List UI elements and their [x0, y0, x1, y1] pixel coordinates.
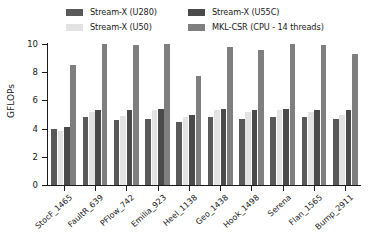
bar: [214, 110, 220, 185]
bar: [270, 117, 276, 185]
x-tick-mark: [64, 186, 65, 191]
x-tick-mark: [345, 186, 346, 191]
bar: [346, 110, 352, 185]
y-tick-mark: [42, 185, 48, 186]
x-tick-mark: [251, 186, 252, 191]
legend-label-mkl-csr: MKL-CSR (CPU - 14 threads): [212, 23, 324, 32]
bar: [176, 122, 182, 185]
bar: [208, 117, 214, 185]
bar: [333, 119, 339, 185]
bar: [308, 112, 314, 185]
x-tick-mark: [189, 186, 190, 191]
bar: [164, 44, 170, 185]
bars-layer: [48, 44, 361, 185]
bar: [120, 116, 126, 185]
x-tick-mark: [95, 186, 96, 191]
bar: [158, 109, 164, 185]
bar: [145, 119, 151, 185]
legend-swatch-stream-x-u280: [66, 9, 83, 16]
bar: [283, 109, 289, 185]
bar: [245, 112, 251, 185]
x-tick-mark: [283, 186, 284, 191]
legend-swatch-mkl-csr: [188, 24, 205, 31]
bar: [227, 47, 233, 185]
chart-legend: Stream-X (U280) Stream-X (U50) Stream-X …: [66, 6, 366, 38]
bar: [339, 115, 345, 186]
y-tick-label: 8: [0, 67, 38, 77]
bar: [352, 54, 358, 185]
legend-entry-mkl-csr: MKL-CSR (CPU - 14 threads): [188, 21, 324, 34]
legend-label-stream-x-u50: Stream-X (U50): [90, 23, 152, 32]
y-tick-label: 4: [0, 124, 38, 134]
x-tick-label: StocF_1465: [33, 193, 74, 231]
bar: [252, 110, 258, 185]
bar: [321, 45, 327, 185]
y-tick-label: 0: [0, 180, 38, 190]
bar: [133, 45, 139, 185]
y-tick-label: 6: [0, 95, 38, 105]
bar: [302, 117, 308, 185]
bar: [89, 112, 95, 185]
x-tick-mark: [126, 186, 127, 191]
bar: [314, 110, 320, 185]
bar: [221, 109, 227, 185]
x-tick-mark: [220, 186, 221, 191]
bar-chart-figure: Stream-X (U280) Stream-X (U50) Stream-X …: [0, 0, 371, 252]
y-tick-label: 2: [0, 152, 38, 162]
bar: [83, 117, 89, 185]
bar: [277, 110, 283, 185]
legend-label-stream-x-u55c: Stream-X (U55C): [212, 8, 279, 17]
legend-swatch-stream-x-u50: [66, 24, 83, 31]
bar: [58, 131, 64, 185]
x-tick-label: Serena: [266, 193, 293, 218]
legend-swatch-stream-x-u55c: [188, 9, 205, 16]
x-tick-mark: [158, 186, 159, 191]
bar: [239, 119, 245, 185]
bar: [258, 50, 264, 185]
x-tick-mark: [314, 186, 315, 191]
bar: [51, 129, 57, 185]
legend-entry-stream-x-u280: Stream-X (U280): [66, 6, 157, 19]
y-tick-label: 10: [0, 39, 38, 49]
bar: [114, 120, 120, 185]
bar: [196, 76, 202, 185]
bar: [183, 117, 189, 185]
legend-entry-stream-x-u55c: Stream-X (U55C): [188, 6, 279, 19]
bar: [290, 44, 296, 185]
legend-label-stream-x-u280: Stream-X (U280): [90, 8, 157, 17]
bar: [127, 110, 133, 185]
bar: [152, 110, 158, 185]
bar: [102, 44, 108, 185]
bar: [70, 65, 76, 185]
bar: [95, 110, 101, 185]
bar: [189, 115, 195, 186]
legend-entry-stream-x-u50: Stream-X (U50): [66, 21, 152, 34]
bar: [64, 127, 70, 185]
